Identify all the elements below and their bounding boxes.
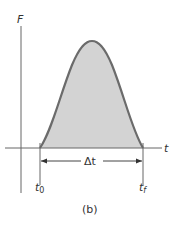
arrowhead-left-icon xyxy=(41,159,47,164)
figure-caption: (b) xyxy=(82,203,98,216)
x-axis-label: t xyxy=(164,142,169,155)
pulse-area xyxy=(40,41,143,148)
y-axis-label: F xyxy=(17,13,24,26)
interval-label: Δt xyxy=(84,155,97,168)
arrowhead-right-icon xyxy=(136,159,142,164)
tf-label: tf xyxy=(139,181,147,195)
impulse-diagram: F t Δt t0 tf (b) xyxy=(0,0,173,225)
